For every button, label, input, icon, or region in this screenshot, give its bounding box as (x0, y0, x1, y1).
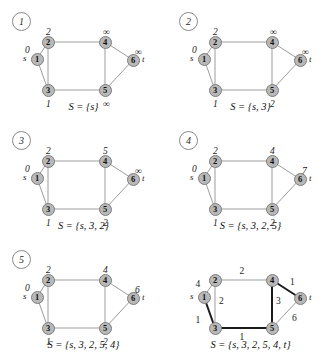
panel-caption-1: S = {s} (0, 101, 167, 112)
distance-label-5: 2 (270, 218, 275, 228)
distance-label-2: 2 (213, 27, 218, 37)
panel-1: 1123456st021∞∞∞S = {s} (0, 0, 167, 119)
weight-label-2_4: 2 (240, 266, 245, 276)
node-1: 1 (31, 53, 44, 66)
distance-label-1: 0 (25, 164, 30, 174)
distance-label-6: 6 (135, 285, 140, 295)
distance-label-1: 0 (25, 283, 30, 293)
distance-label-1: 0 (25, 45, 30, 55)
panel-4: 4123456st021427S = {s, 3, 2, 5} (167, 119, 334, 238)
distance-label-6: ∞ (135, 166, 142, 176)
weight-label-4_5: 3 (276, 296, 281, 306)
panel-caption-4: S = {s, 3, 2, 5} (167, 220, 334, 231)
weight-label-1_3: 1 (196, 315, 201, 325)
panel-caption-6: S = {s, 3, 2, 5, 4, t} (167, 339, 334, 350)
node-2: 2 (42, 155, 55, 168)
node-5: 5 (99, 322, 112, 335)
node-1: 1 (31, 172, 44, 185)
distance-label-4: ∞ (103, 27, 110, 37)
source-marker-s: s (190, 291, 194, 301)
node-5: 5 (266, 322, 279, 335)
distance-label-2: 2 (213, 146, 218, 156)
distance-label-4: 4 (270, 146, 275, 156)
node-3: 3 (42, 322, 55, 335)
distance-label-3: 1 (213, 218, 218, 228)
node-5: 5 (266, 203, 279, 216)
target-marker-t: t (309, 54, 312, 64)
panel-caption-2: S = {s, 3} (167, 101, 334, 112)
distance-label-1: 0 (192, 164, 197, 174)
panel-caption-3: S = {s, 3, 2} (0, 220, 167, 231)
panel-3: 3123456st02152∞S = {s, 3, 2} (0, 119, 167, 238)
target-marker-t: t (142, 292, 145, 302)
node-2: 2 (209, 155, 222, 168)
target-marker-t: t (142, 173, 145, 183)
node-2: 2 (42, 274, 55, 287)
distance-label-5: 2 (103, 218, 108, 228)
distance-label-5: 2 (103, 337, 108, 347)
node-4: 4 (99, 274, 112, 287)
panel-2: 2123456st021∞2∞S = {s, 3} (167, 0, 334, 119)
panel-5: 5123456st021426S = {s, 3, 2, 5, 4} (0, 238, 167, 357)
node-3: 3 (209, 322, 222, 335)
distance-label-5: ∞ (103, 99, 110, 109)
node-6: 6 (294, 292, 307, 305)
distance-label-3: 1 (46, 99, 51, 109)
node-3: 3 (42, 84, 55, 97)
node-3: 3 (209, 203, 222, 216)
node-4: 4 (266, 36, 279, 49)
node-5: 5 (99, 203, 112, 216)
target-marker-t: t (309, 292, 312, 302)
node-4: 4 (99, 36, 112, 49)
weight-label-5_6: 6 (292, 313, 297, 323)
node-1: 1 (31, 291, 44, 304)
panel-6: 123456st41221316S = {s, 3, 2, 5, 4, t} (167, 238, 334, 357)
node-2: 2 (42, 36, 55, 49)
node-4: 4 (99, 155, 112, 168)
node-1: 1 (198, 291, 211, 304)
node-3: 3 (42, 203, 55, 216)
node-1: 1 (198, 53, 211, 66)
distance-label-6: 7 (302, 166, 307, 176)
target-marker-t: t (309, 173, 312, 183)
distance-label-6: ∞ (135, 47, 142, 57)
distance-label-2: 2 (46, 265, 51, 275)
node-4: 4 (266, 274, 279, 287)
node-2: 2 (209, 36, 222, 49)
distance-label-3: 1 (46, 337, 51, 347)
distance-label-6: ∞ (302, 47, 309, 57)
target-marker-t: t (142, 54, 145, 64)
distance-label-3: 1 (46, 218, 51, 228)
node-4: 4 (266, 155, 279, 168)
node-2: 2 (209, 274, 222, 287)
distance-label-2: 2 (46, 27, 51, 37)
distance-label-4: ∞ (270, 27, 277, 37)
figure-canvas: 1123456st021∞∞∞S = {s}2123456st021∞2∞S =… (0, 0, 334, 358)
panel-caption-5: S = {s, 3, 2, 5, 4} (0, 339, 167, 350)
distance-label-2: 2 (46, 146, 51, 156)
distance-label-3: 1 (213, 99, 218, 109)
weight-label-1_2: 4 (196, 279, 201, 289)
weight-label-3_5: 1 (240, 332, 245, 342)
node-5: 5 (266, 84, 279, 97)
node-5: 5 (99, 84, 112, 97)
distance-label-5: 2 (270, 99, 275, 109)
node-1: 1 (198, 172, 211, 185)
node-3: 3 (209, 84, 222, 97)
distance-label-4: 4 (103, 265, 108, 275)
weight-label-4_6: 1 (290, 277, 295, 287)
distance-label-4: 5 (103, 146, 108, 156)
weight-label-2_3: 2 (219, 296, 224, 306)
distance-label-1: 0 (192, 45, 197, 55)
